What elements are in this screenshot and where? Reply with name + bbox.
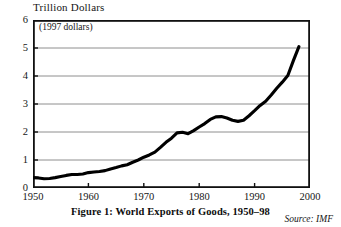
y-tick-label-6: 6 bbox=[8, 15, 28, 25]
y-tick-label-2: 2 bbox=[8, 127, 28, 137]
y-axis-title: Trillion Dollars bbox=[33, 1, 105, 13]
figure-caption: Figure 1: World Exports of Goods, 1950–9… bbox=[0, 206, 341, 217]
x-tick-label-2000: 2000 bbox=[290, 191, 330, 202]
x-tick-label-1990: 1990 bbox=[235, 191, 275, 202]
x-tick-label-1980: 1980 bbox=[179, 191, 219, 202]
units-annotation: (1997 dollars) bbox=[39, 22, 93, 32]
y-tick-label-3: 3 bbox=[8, 99, 28, 109]
plot-area bbox=[33, 20, 310, 188]
chart-svg bbox=[33, 20, 310, 188]
gridlines bbox=[33, 48, 310, 160]
figure-container: Trillion Dollars bbox=[0, 0, 341, 227]
x-tick-label-1960: 1960 bbox=[68, 191, 108, 202]
y-tick-label-1: 1 bbox=[8, 155, 28, 165]
x-tick-label-1950: 1950 bbox=[13, 191, 53, 202]
y-tick-label-5: 5 bbox=[8, 43, 28, 53]
x-tick-label-1970: 1970 bbox=[124, 191, 164, 202]
y-tick-label-4: 4 bbox=[8, 71, 28, 81]
data-series-line bbox=[33, 47, 299, 179]
